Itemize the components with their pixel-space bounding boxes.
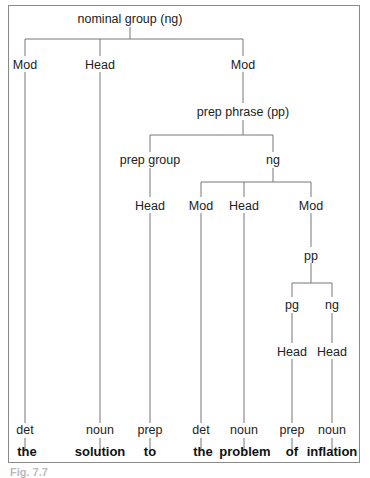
node-head: Head	[134, 199, 166, 213]
node-head: Head	[228, 199, 260, 213]
word: to	[144, 444, 156, 459]
node-ng: ng	[324, 298, 340, 312]
word: inflation	[307, 444, 358, 459]
pos-tag: det	[191, 423, 210, 437]
node-mod: Mod	[188, 199, 214, 213]
pos-tag: noun	[85, 423, 115, 437]
word: problem	[219, 444, 270, 459]
pos-tag: prep	[136, 423, 163, 437]
node-prep-group: prep group	[119, 153, 181, 167]
node-ng: ng	[265, 153, 281, 167]
node-pp: pp	[303, 249, 319, 263]
pos-tag: noun	[317, 423, 347, 437]
word: of	[286, 444, 298, 459]
node-head: Head	[276, 345, 308, 359]
word: solution	[75, 444, 126, 459]
node-head: Head	[316, 345, 348, 359]
node-prep-phrase: prep phrase (pp)	[196, 105, 290, 119]
word: the	[193, 444, 213, 459]
pos-tag: noun	[229, 423, 259, 437]
node-mod: Mod	[12, 58, 38, 72]
pos-tag: det	[15, 423, 34, 437]
pos-tag: prep	[278, 423, 305, 437]
node-pg: pg	[284, 298, 300, 312]
word: the	[17, 444, 37, 459]
figure-caption: Fig. 7.7	[10, 466, 48, 478]
node-mod: Mod	[298, 199, 324, 213]
node-mod: Mod	[230, 58, 256, 72]
node-head: Head	[84, 58, 116, 72]
node-root: nominal group (ng)	[77, 12, 184, 26]
